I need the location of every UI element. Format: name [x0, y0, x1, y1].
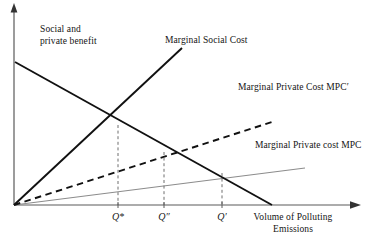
- marginal-social-cost-label: Marginal Social Cost: [165, 35, 248, 47]
- x-tick-label-q-double-prime: Q″: [151, 211, 177, 222]
- x-axis-arrow-icon: [350, 201, 361, 209]
- marginal-private-cost-label: Marginal Private cost MPC: [255, 140, 362, 152]
- marginal-private-cost-prime-curve: [14, 122, 272, 205]
- economics-externality-diagram: Social and private benefit Marginal Soci…: [0, 0, 372, 243]
- x-axis-label: Volume of Polluting Emissions: [238, 212, 348, 235]
- y-axis-arrow-icon: [11, 3, 18, 13]
- marginal-private-cost-prime-label: Marginal Private Cost MPC′: [238, 82, 349, 94]
- marginal-social-cost-curve: [14, 48, 182, 205]
- curve-group: [14, 48, 305, 205]
- x-tick-label-q-prime: Q′: [209, 211, 235, 222]
- dropline-group: [118, 125, 222, 205]
- x-tick-label-q-star: Q*: [105, 211, 131, 222]
- social-private-benefit-label: Social and private benefit: [40, 24, 97, 47]
